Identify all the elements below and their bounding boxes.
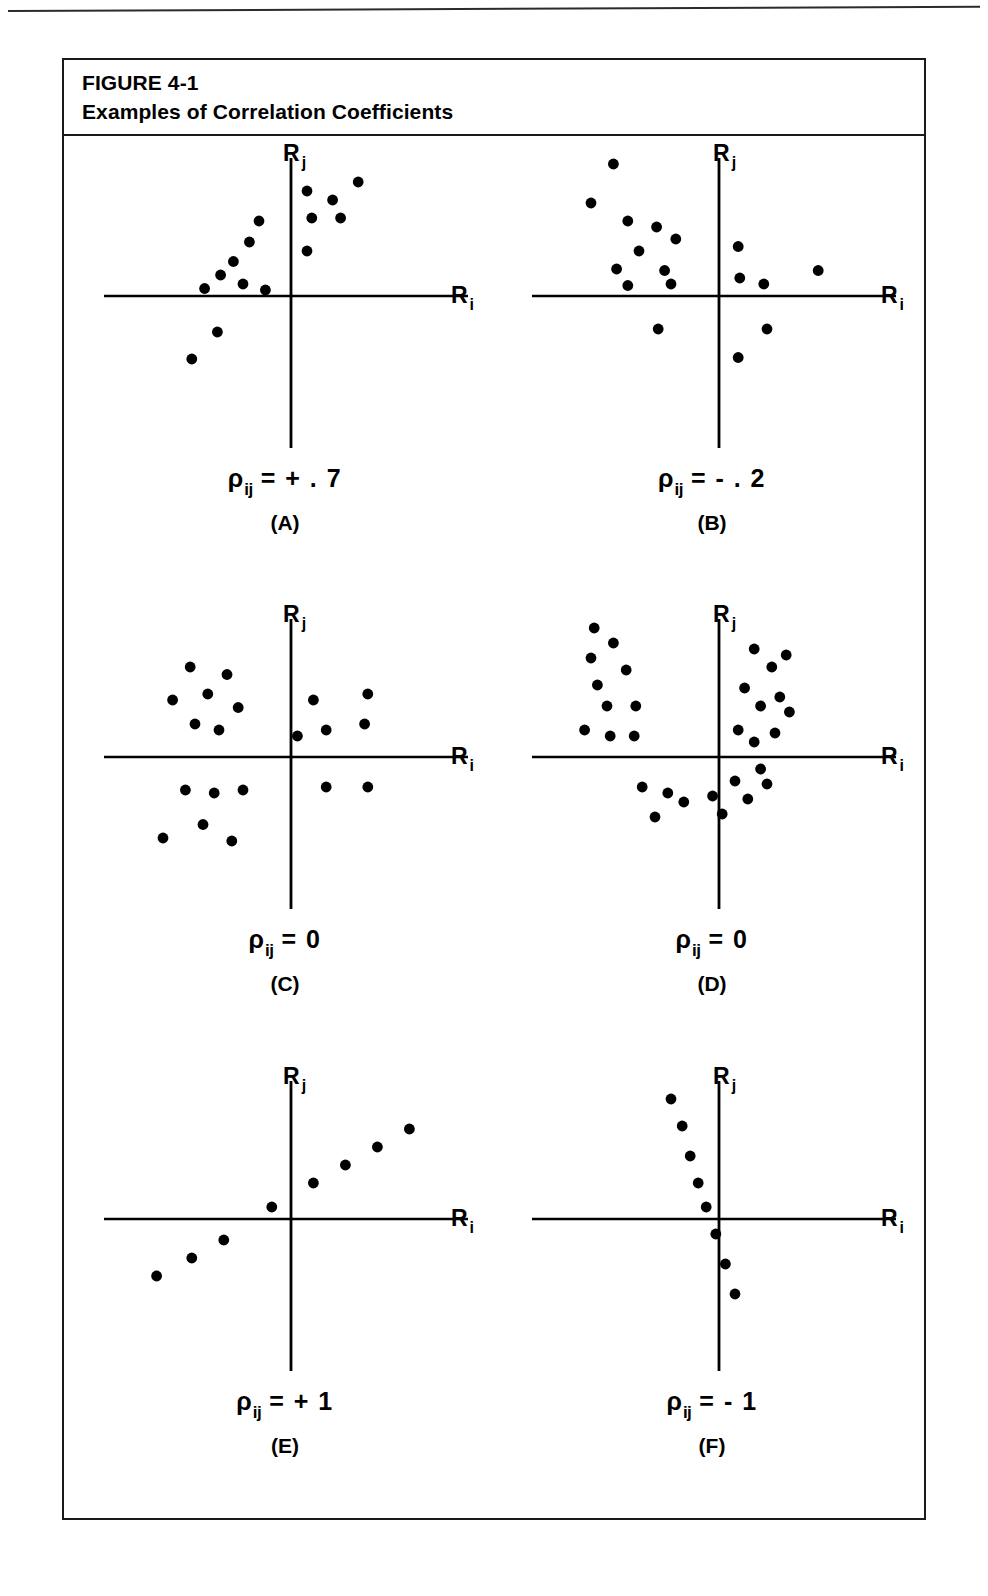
data-point xyxy=(749,644,760,655)
data-point xyxy=(734,273,745,284)
data-point xyxy=(707,791,718,802)
x-axis-label-base-b: R xyxy=(881,282,898,308)
x-axis-label-d: Ri xyxy=(881,745,902,768)
data-point xyxy=(685,1150,696,1161)
data-point xyxy=(218,1234,229,1245)
panel-f: Rj Ri ρij= - 1 (F) xyxy=(494,1059,924,1520)
data-point xyxy=(586,198,597,209)
y-axis-label-sub-e: j xyxy=(302,1077,306,1094)
y-axis-label-a: Rj xyxy=(283,142,304,165)
x-axis-label-sub-e: i xyxy=(470,1219,474,1236)
panel-a: Rj Ri ρij= + . 7 (A) xyxy=(64,136,494,597)
rho-symbol-a: ρ xyxy=(228,464,243,492)
rho-symbol-d: ρ xyxy=(676,925,691,953)
data-point xyxy=(167,695,178,706)
data-point xyxy=(586,653,597,664)
data-point xyxy=(701,1201,712,1212)
data-point xyxy=(190,719,201,730)
scatter-plot-b xyxy=(494,136,924,466)
data-point xyxy=(308,1177,319,1188)
y-axis-label-base-b: R xyxy=(713,140,730,166)
rho-value-f: = - 1 xyxy=(699,1387,757,1415)
scatter-plot-e xyxy=(64,1059,494,1389)
data-point xyxy=(720,1258,731,1269)
data-point xyxy=(233,702,244,713)
data-point xyxy=(228,256,239,267)
rho-caption-c: ρij= 0 xyxy=(64,927,494,952)
data-point xyxy=(266,1201,277,1212)
data-point xyxy=(199,283,210,294)
data-point xyxy=(622,280,633,291)
data-point xyxy=(717,809,728,820)
y-axis-label-sub-c: j xyxy=(302,615,306,632)
y-axis-label-f: Rj xyxy=(713,1065,734,1088)
data-point xyxy=(659,265,670,276)
data-point xyxy=(650,812,661,823)
data-point xyxy=(629,731,640,742)
data-point xyxy=(637,782,648,793)
panel-letter-a: (A) xyxy=(64,512,494,533)
data-point xyxy=(755,764,766,775)
rho-symbol-f: ρ xyxy=(666,1387,681,1415)
rho-caption-d: ρij= 0 xyxy=(494,927,924,952)
data-point xyxy=(608,159,619,170)
y-axis-label-base-d: R xyxy=(713,601,730,627)
x-axis-label-sub-d: i xyxy=(900,757,904,774)
data-point xyxy=(739,683,750,694)
data-point xyxy=(180,785,191,796)
data-point xyxy=(670,234,681,245)
data-point xyxy=(238,279,249,290)
x-axis-label-base-e: R xyxy=(451,1205,468,1231)
x-axis-label-base-f: R xyxy=(881,1205,898,1231)
data-point xyxy=(710,1228,721,1239)
y-axis-label-base-c: R xyxy=(283,601,300,627)
data-point xyxy=(226,836,237,847)
data-point xyxy=(774,692,785,703)
data-point xyxy=(260,285,271,296)
panel-d: Rj Ri ρij= 0 (D) xyxy=(494,597,924,1058)
rho-caption-f: ρij= - 1 xyxy=(494,1389,924,1414)
y-axis-label-base-f: R xyxy=(713,1063,730,1089)
data-point xyxy=(602,701,613,712)
data-point xyxy=(185,662,196,673)
data-point xyxy=(238,785,249,796)
data-point xyxy=(212,327,223,338)
rho-caption-a: ρij= + . 7 xyxy=(64,466,494,491)
data-point xyxy=(592,680,603,691)
data-point xyxy=(662,788,673,799)
scatter-svg-a xyxy=(78,136,494,466)
data-point xyxy=(579,725,590,736)
y-axis-label-c: Rj xyxy=(283,603,304,626)
x-axis-label-a: Ri xyxy=(451,284,472,307)
data-point xyxy=(666,1093,677,1104)
data-point xyxy=(186,1252,197,1263)
data-point xyxy=(244,237,255,248)
figure-caption: FIGURE 4-1 Examples of Correlation Coeff… xyxy=(64,60,924,136)
rho-subscript-b: ij xyxy=(674,480,682,499)
data-point xyxy=(372,1141,383,1152)
y-axis-label-b: Rj xyxy=(713,142,734,165)
data-point xyxy=(215,270,226,281)
data-point xyxy=(222,669,233,680)
data-point xyxy=(340,1159,351,1170)
rho-subscript-c: ij xyxy=(265,941,273,960)
data-point xyxy=(733,725,744,736)
data-point xyxy=(630,701,641,712)
figure-title: Examples of Correlation Coefficients xyxy=(82,98,924,127)
data-point xyxy=(749,737,760,748)
rho-subscript-f: ij xyxy=(683,1403,691,1422)
data-point xyxy=(302,246,313,257)
scatter-plot-f xyxy=(494,1059,924,1389)
panel-b: Rj Ri ρij= - . 2 (B) xyxy=(494,136,924,597)
scatter-plot-d xyxy=(494,597,924,927)
y-axis-label-base-a: R xyxy=(283,140,300,166)
y-axis-label-sub-a: j xyxy=(302,154,306,171)
panel-c: Rj Ri ρij= 0 (C) xyxy=(64,597,494,1058)
data-point xyxy=(621,665,632,676)
data-point xyxy=(766,662,777,673)
panel-e: Rj Ri ρij= + 1 (E) xyxy=(64,1059,494,1520)
panel-letter-e: (E) xyxy=(64,1435,494,1456)
data-point xyxy=(742,794,753,805)
x-axis-label-sub-b: i xyxy=(900,296,904,313)
y-axis-label-base-e: R xyxy=(283,1063,300,1089)
